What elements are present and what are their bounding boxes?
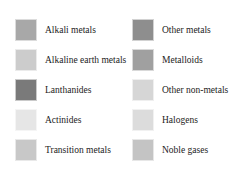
legend-item-transition-metals: Transition metals [15,139,126,169]
legend-label: Actinides [45,114,81,126]
color-swatch [132,109,154,131]
legend-label: Alkaline earth metals [45,54,126,66]
legend-item-metalloids: Metalloids [132,49,228,79]
color-swatch [15,139,37,161]
legend-column-right: Other metals Metalloids Other non-metals… [132,19,228,169]
color-swatch [15,79,37,101]
legend-item-alkaline-earth-metals: Alkaline earth metals [15,49,126,79]
legend-label: Noble gases [162,144,208,156]
color-swatch [15,109,37,131]
legend-label: Metalloids [162,54,203,66]
legend-label: Other non-metals [162,84,228,96]
color-swatch [132,49,154,71]
legend-item-actinides: Actinides [15,109,126,139]
legend-item-alkali-metals: Alkali metals [15,19,126,49]
color-swatch [15,19,37,41]
element-category-legend: Alkali metals Alkaline earth metals Lant… [15,19,240,169]
legend-label: Transition metals [45,144,111,156]
legend-item-other-metals: Other metals [132,19,228,49]
legend-column-left: Alkali metals Alkaline earth metals Lant… [15,19,126,169]
legend-item-noble-gases: Noble gases [132,139,228,169]
color-swatch [132,139,154,161]
color-swatch [132,19,154,41]
legend-label: Alkali metals [45,24,96,36]
color-swatch [15,49,37,71]
legend-label: Halogens [162,114,198,126]
legend-label: Lanthanides [45,84,91,96]
legend-item-lanthanides: Lanthanides [15,79,126,109]
legend-label: Other metals [162,24,211,36]
legend-item-halogens: Halogens [132,109,228,139]
legend-item-other-non-metals: Other non-metals [132,79,228,109]
color-swatch [132,79,154,101]
